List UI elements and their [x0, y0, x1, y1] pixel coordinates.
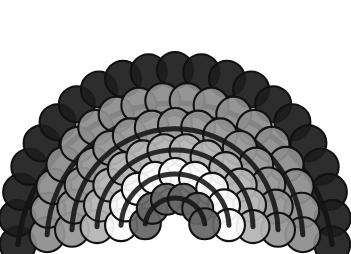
circle-rainbow-graphic [0, 0, 351, 254]
figure-canvas [0, 0, 351, 254]
